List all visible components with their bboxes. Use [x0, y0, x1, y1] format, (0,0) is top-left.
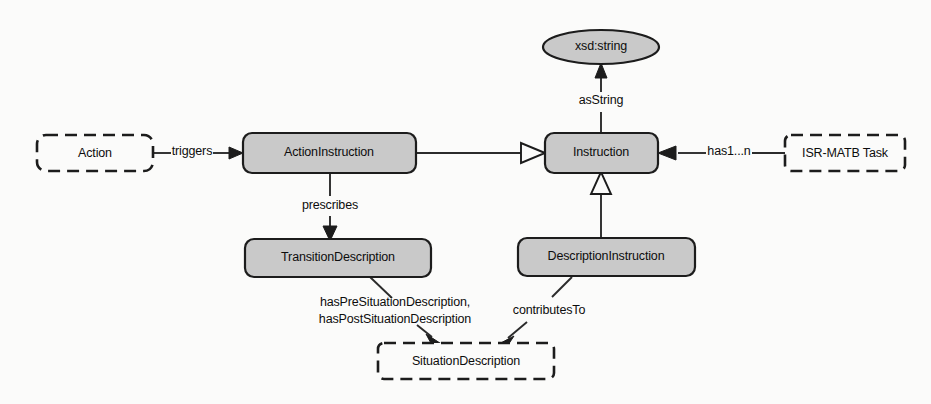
node-action[interactable]: Action — [37, 135, 153, 171]
edge-generalization-description-instruction — [591, 172, 611, 238]
edge-label-prescribes: prescribes — [302, 198, 358, 212]
edge-generalization-action-instruction — [416, 143, 545, 163]
node-action-instruction-label: ActionInstruction — [284, 145, 374, 159]
edge-label-as-string: asString — [579, 93, 624, 107]
edge-label-has-pre-situation-description: hasPreSituationDescription, — [320, 295, 470, 309]
node-instruction-label: Instruction — [573, 145, 629, 159]
edge-label-has-1-n: has1...n — [707, 144, 750, 158]
edge-label-contributes-to: contributesTo — [513, 303, 586, 317]
node-action-label: Action — [78, 146, 112, 160]
node-description-instruction-label: DescriptionInstruction — [548, 249, 665, 263]
node-transition-description-label: TransitionDescription — [281, 250, 395, 264]
node-transition-description[interactable]: TransitionDescription — [245, 239, 431, 277]
node-action-instruction[interactable]: ActionInstruction — [243, 133, 416, 173]
edge-label-triggers: triggers — [172, 144, 212, 158]
node-isr-matb-task[interactable]: ISR-MATB Task — [785, 135, 905, 171]
node-description-instruction[interactable]: DescriptionInstruction — [518, 238, 695, 276]
node-instruction[interactable]: Instruction — [545, 133, 658, 173]
node-isr-matb-task-label: ISR-MATB Task — [802, 146, 889, 160]
node-xsd-string-label: xsd:string — [575, 39, 627, 53]
edge-label-has-post-situation-description: hasPostSituationDescription — [319, 312, 471, 326]
node-situation-description[interactable]: SituationDescription — [378, 343, 554, 379]
diagram-canvas: triggers asString has1...n prescribes ha… — [0, 0, 931, 404]
node-xsd-string[interactable]: xsd:string — [543, 30, 659, 64]
ontology-diagram: triggers asString has1...n prescribes ha… — [0, 0, 931, 404]
node-situation-description-label: SituationDescription — [412, 354, 520, 368]
